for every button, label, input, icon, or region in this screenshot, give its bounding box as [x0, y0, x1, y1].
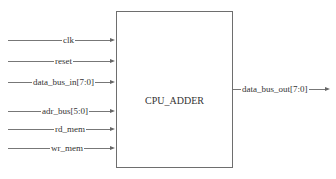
- signal-label: wr_mem: [50, 142, 84, 154]
- input-signal-reset: reset: [8, 55, 116, 67]
- input-signal-adr-bus: adr_bus[5:0]: [8, 105, 116, 117]
- signal-label: clk: [62, 34, 75, 46]
- input-signal-data-bus-in: data_bus_in[7:0]: [8, 76, 116, 88]
- signal-label: data_bus_out[7:0]: [241, 83, 309, 95]
- arrow-right-icon: [110, 59, 115, 63]
- signal-line: [8, 40, 111, 41]
- module-block: CPU_ADDER: [116, 11, 233, 168]
- arrow-right-icon: [325, 87, 330, 91]
- output-signal-data-bus-out: data_bus_out[7:0]: [233, 83, 333, 95]
- arrow-right-icon: [110, 38, 115, 42]
- arrow-right-icon: [110, 127, 115, 131]
- input-signal-rd-mem: rd_mem: [8, 123, 116, 135]
- input-signal-clk: clk: [8, 34, 116, 46]
- signal-label: adr_bus[5:0]: [41, 105, 89, 117]
- arrow-right-icon: [110, 146, 115, 150]
- module-name: CPU_ADDER: [117, 95, 232, 106]
- arrow-right-icon: [110, 109, 115, 113]
- arrow-right-icon: [110, 80, 115, 84]
- signal-label: data_bus_in[7:0]: [32, 76, 95, 88]
- signal-label: rd_mem: [54, 123, 86, 135]
- input-signal-wr-mem: wr_mem: [8, 142, 116, 154]
- signal-label: reset: [54, 55, 73, 67]
